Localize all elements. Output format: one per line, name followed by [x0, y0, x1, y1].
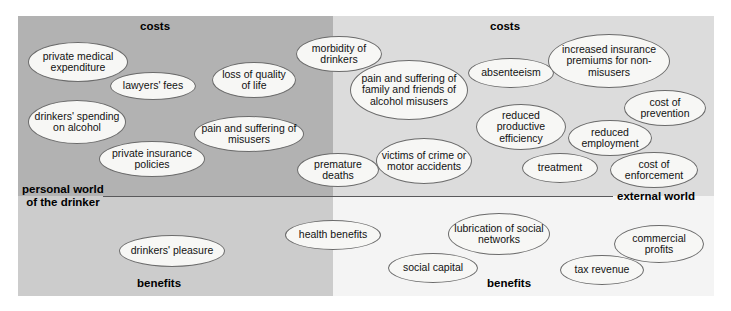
- node-tax-revenue: tax revenue: [560, 255, 644, 285]
- node-premature-deaths: premature deaths: [297, 153, 379, 187]
- quadrant-label-benefits-right: benefits: [487, 277, 531, 290]
- node-victims-of-crime-or-motor-accidents: victims of crime or motor accidents: [376, 138, 472, 184]
- node-private-insurance-policies: private insurance policies: [99, 141, 205, 177]
- node-label: premature deaths: [302, 159, 374, 182]
- node-label: drinkers' spending on alcohol: [33, 111, 121, 134]
- node-label: social capital: [403, 262, 463, 274]
- axis-label-external-world: external world: [617, 190, 695, 203]
- axis-label-personal-world-line2: of the drinker: [22, 196, 104, 209]
- node-increased-insurance-premiums: increased insurance premiums for non-mis…: [548, 34, 670, 88]
- node-label: lawyers' fees: [123, 80, 183, 92]
- node-label: pain and suffering of misusers: [199, 123, 299, 146]
- node-drinkers-spending-on-alcohol: drinkers' spending on alcohol: [28, 100, 126, 144]
- node-label: commercial profits: [619, 233, 699, 256]
- node-private-medical-expenditure: private medical expenditure: [28, 42, 128, 82]
- node-reduced-productive-efficiency: reduced productive efficiency: [476, 104, 566, 150]
- horizontal-axis-line: [103, 196, 613, 197]
- node-health-benefits: health benefits: [285, 220, 381, 250]
- node-social-capital: social capital: [388, 253, 478, 283]
- quadrant-label-costs-right: costs: [490, 20, 520, 33]
- node-label: health benefits: [299, 229, 367, 241]
- node-cost-of-enforcement: cost of enforcement: [610, 152, 698, 188]
- node-label: victims of crime or motor accidents: [381, 150, 467, 173]
- node-drinkers-pleasure: drinkers' pleasure: [119, 235, 225, 267]
- node-label: reduced productive efficiency: [481, 110, 561, 145]
- quadrant-label-benefits-left: benefits: [137, 277, 181, 290]
- node-absenteeism: absenteeism: [468, 58, 554, 88]
- node-label: lubrication of social networks: [453, 223, 545, 246]
- node-label: cost of enforcement: [615, 159, 693, 182]
- node-label: reduced employment: [573, 127, 647, 150]
- node-pain-and-suffering-of-family-and-friends: pain and suffering of family and friends…: [350, 60, 468, 120]
- node-loss-of-quality-of-life: loss of quality of life: [212, 62, 296, 98]
- node-lawyers-fees: lawyers' fees: [110, 72, 196, 100]
- node-label: tax revenue: [575, 264, 630, 276]
- quadrant-label-costs-left: costs: [140, 20, 170, 33]
- node-label: treatment: [538, 162, 582, 174]
- node-lubrication-of-social-networks: lubrication of social networks: [448, 213, 550, 255]
- node-label: drinkers' pleasure: [131, 245, 214, 257]
- node-label: morbidity of drinkers: [301, 43, 377, 66]
- node-label: private insurance policies: [104, 148, 200, 171]
- node-label: private medical expenditure: [33, 51, 123, 74]
- node-label: absenteeism: [481, 67, 541, 79]
- node-label: pain and suffering of family and friends…: [355, 73, 463, 108]
- node-pain-and-suffering-of-misusers: pain and suffering of misusers: [194, 116, 304, 152]
- node-label: increased insurance premiums for non-mis…: [553, 44, 665, 79]
- axis-label-personal-world: personal world of the drinker: [22, 183, 104, 209]
- axis-label-personal-world-line1: personal world: [22, 183, 104, 196]
- node-label: cost of prevention: [629, 97, 701, 120]
- node-label: loss of quality of life: [217, 69, 291, 92]
- costs-benefits-quadrant-diagram: costs costs benefits benefits personal w…: [0, 0, 731, 311]
- node-treatment: treatment: [522, 153, 598, 183]
- node-reduced-employment: reduced employment: [568, 120, 652, 156]
- node-cost-of-prevention: cost of prevention: [624, 90, 706, 126]
